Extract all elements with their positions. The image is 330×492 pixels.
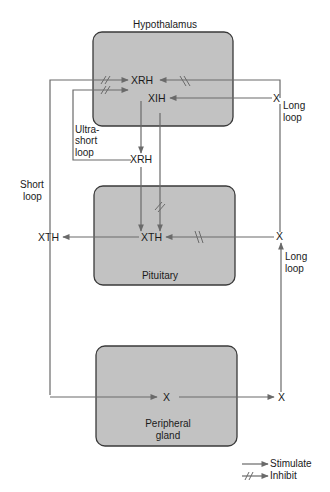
- pituitary-label-visible: Pituitary: [142, 270, 178, 281]
- ultra-short-loop-label-3: loop: [75, 147, 94, 158]
- x-right-bottom-node: X: [278, 391, 285, 403]
- xth-node: XTH: [141, 231, 162, 243]
- xth-out-node: XTH: [38, 231, 59, 243]
- inhibit-arrow-icon: [242, 472, 268, 480]
- long-loop-top-label-1: Long: [283, 100, 305, 111]
- peripheral-label-line2: gland: [156, 430, 180, 441]
- ultra-short-loop-label-2: short: [75, 135, 97, 146]
- xrh-node: XRH: [131, 74, 153, 86]
- short-loop-label-1: Short: [20, 179, 44, 190]
- hypothalamus-label: Hypothalamus: [133, 19, 197, 30]
- legend-stimulate-label: Stimulate: [270, 458, 312, 469]
- xrh-portal-node: XRH: [130, 153, 152, 165]
- x-right-top-node: X: [273, 92, 280, 104]
- xih-node: XIH: [148, 92, 166, 104]
- long-loop-mid-label-2: loop: [285, 263, 304, 274]
- long-loop-top-label-2: loop: [283, 112, 302, 123]
- ultra-short-loop-label-1: Ultra-: [75, 124, 99, 135]
- hypothalamus-box: [93, 32, 233, 126]
- feedback-loop-diagram: Hypothalamus Pituitary Pituitary Periphe…: [0, 0, 330, 492]
- peripheral-label-line1: Peripheral: [145, 418, 191, 429]
- short-loop-label-2: loop: [23, 191, 42, 202]
- long-loop-mid-label-1: Long: [285, 251, 307, 262]
- x-gland-node: X: [163, 391, 170, 403]
- legend: Stimulate Inhibit: [242, 458, 312, 481]
- legend-inhibit-label: Inhibit: [270, 470, 297, 481]
